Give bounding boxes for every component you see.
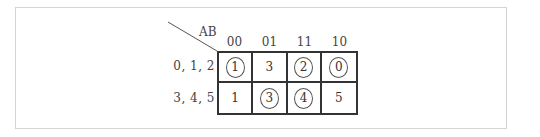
cell-value: 1 xyxy=(226,57,245,78)
column-header: 00 xyxy=(217,35,252,49)
column-header: 11 xyxy=(287,35,322,49)
corner-label: AB xyxy=(199,25,216,39)
grid-cell: 4 xyxy=(288,83,322,113)
cell-value: 3 xyxy=(260,57,279,78)
grid-cell: 5 xyxy=(322,83,356,113)
grid-cell: 1 xyxy=(219,83,253,113)
grid-cell: 3 xyxy=(253,83,287,113)
row-header: 3, 4, 5 xyxy=(173,91,215,105)
cell-value: 4 xyxy=(294,88,313,109)
row-header: 0, 1, 2 xyxy=(173,59,215,73)
grid-cell: 1 xyxy=(219,53,253,83)
cell-value: 3 xyxy=(260,88,279,109)
cell-value: 1 xyxy=(226,88,245,109)
grid-cell: 3 xyxy=(253,53,287,83)
grid-cell: 2 xyxy=(288,53,322,83)
map-grid: 1 3 2 0 1 3 4 5 xyxy=(217,51,358,115)
grid-cell: 0 xyxy=(322,53,356,83)
column-header: 10 xyxy=(322,35,357,49)
cell-value: 5 xyxy=(329,88,348,109)
cell-value: 0 xyxy=(329,57,348,78)
column-header: 01 xyxy=(252,35,287,49)
cell-value: 2 xyxy=(294,57,313,78)
